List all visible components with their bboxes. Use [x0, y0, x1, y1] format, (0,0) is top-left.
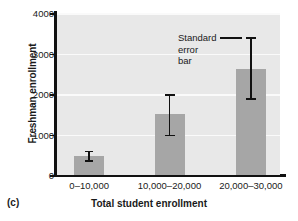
figure-panel-c: Freshman enrollment 01000200030004000 St…	[0, 0, 298, 221]
standard-error-bar-annotation: Standarderrorbar	[178, 32, 217, 67]
error-bar-cap-bottom	[246, 98, 256, 100]
x-axis-tick-label: 10,000–20,000	[138, 180, 201, 191]
x-axis-tick-label: 20,000–30,000	[219, 180, 282, 191]
error-bar-cap-top	[165, 94, 175, 96]
plot-area	[57, 13, 280, 175]
y-axis-tick-mark	[50, 94, 55, 96]
y-axis-tick-mark	[50, 135, 55, 137]
annotation-leader-line	[220, 37, 242, 39]
annotation-line: error	[178, 44, 217, 56]
y-axis-tick-mark	[50, 54, 55, 56]
error-bar-cap-top	[246, 37, 256, 39]
panel-label: (c)	[7, 197, 19, 208]
error-bar	[169, 94, 171, 135]
y-axis-tick-mark	[50, 175, 55, 177]
x-axis-title: Total student enrollment	[0, 198, 298, 209]
y-axis-tick-mark	[50, 13, 55, 15]
gridline	[57, 54, 280, 56]
error-bar	[250, 37, 252, 98]
error-bar-cap-bottom	[85, 160, 93, 162]
y-axis-tick-labels: 01000200030004000	[22, 0, 54, 221]
gridline	[57, 13, 280, 15]
error-bar-cap-bottom	[165, 135, 175, 137]
annotation-line: Standard	[178, 32, 217, 44]
x-axis-tick-label: 0–10,000	[69, 180, 109, 191]
error-bar-cap-top	[85, 151, 93, 153]
annotation-line: bar	[178, 55, 217, 67]
